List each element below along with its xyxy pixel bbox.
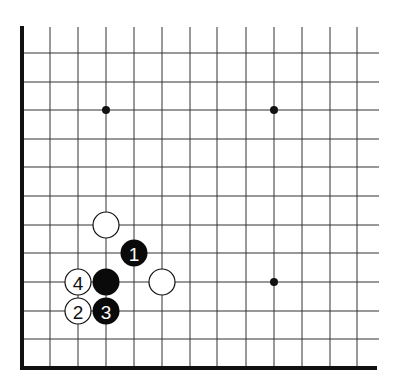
black-stone-3: 3 [93, 298, 120, 325]
move-number: 2 [73, 302, 84, 323]
white-stone-icon [149, 269, 175, 295]
white-stone-icon [93, 212, 119, 238]
go-board: 1423 [0, 0, 399, 390]
black-stone-icon [93, 269, 120, 296]
move-number: 1 [129, 244, 140, 265]
black-stone [93, 269, 120, 296]
white-stone-2: 2 [65, 298, 91, 324]
move-number: 3 [101, 302, 112, 323]
white-stone-4: 4 [65, 269, 91, 295]
stones: 1423 [65, 212, 175, 325]
black-stone-1: 1 [121, 240, 148, 267]
white-stone [93, 212, 119, 238]
move-number: 4 [73, 273, 84, 294]
white-stone [149, 269, 175, 295]
star-point [270, 106, 278, 114]
star-point [102, 106, 110, 114]
star-point [270, 278, 278, 286]
